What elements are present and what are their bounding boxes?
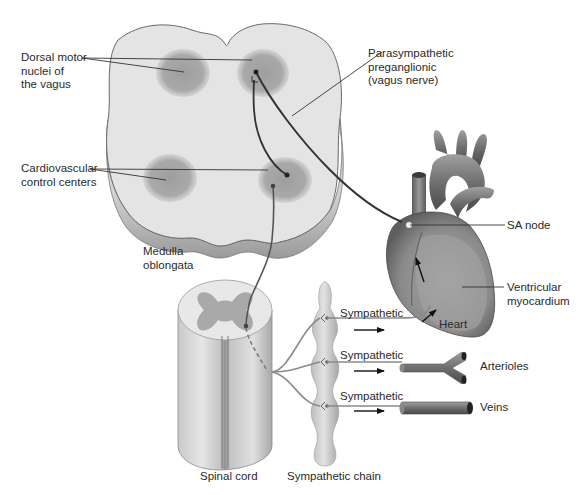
label-cardiovascular-centers: Cardiovascular control centers [21, 162, 98, 189]
veins [400, 402, 474, 414]
dorsal-nucleus-right [237, 49, 289, 97]
heart [386, 130, 494, 337]
label-spinal-cord: Spinal cord [200, 470, 258, 484]
label-sympathetic-chain: Sympathetic chain [287, 470, 381, 484]
label-veins: Veins [480, 401, 508, 415]
label-dorsal-motor-nuclei: Dorsal motor nuclei of the vagus [21, 51, 87, 92]
cv-center-right [258, 157, 312, 203]
sympathetic-chain [311, 282, 339, 466]
label-ventricular-myocardium: Ventricular myocardium [507, 281, 570, 308]
diagram-canvas [0, 0, 581, 495]
label-sympathetic-arterioles: Sympathetic [340, 349, 403, 363]
label-parasympathetic-preganglionic: Parasympathetic preganglionic (vagus ner… [368, 47, 454, 88]
label-arterioles: Arterioles [480, 360, 529, 374]
label-sympathetic-heart: Sympathetic [340, 307, 403, 321]
spinal-cord [178, 280, 272, 470]
dorsal-nucleus-left [156, 49, 210, 97]
label-heart: Heart [439, 318, 467, 332]
arterioles [400, 352, 467, 384]
label-sympathetic-veins: Sympathetic [340, 390, 403, 404]
label-sa-node: SA node [507, 219, 550, 233]
label-medulla-oblongata: Medulla oblongata [143, 245, 194, 272]
